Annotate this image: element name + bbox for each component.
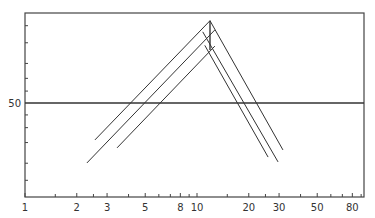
x-tick-label: 30 — [273, 202, 286, 213]
line-falling-3 — [205, 45, 268, 157]
x-tick-label: 8 — [177, 202, 183, 213]
x-axis: 123581020305080 — [22, 193, 361, 213]
x-tick-label: 2 — [74, 202, 80, 213]
line-rising-1 — [95, 21, 210, 140]
x-tick-label: 80 — [346, 202, 359, 213]
x-tick-label: 10 — [191, 202, 204, 213]
x-tick-label: 20 — [242, 202, 255, 213]
x-tick-label: 50 — [311, 202, 324, 213]
line-rising-2 — [87, 30, 215, 163]
line-rising-3 — [117, 46, 215, 148]
x-tick-label: 3 — [104, 202, 110, 213]
x-tick-label: 1 — [22, 202, 28, 213]
plot-frame — [25, 13, 364, 197]
data-lines — [87, 21, 283, 163]
y-label-50: 50 — [8, 98, 21, 109]
x-tick-label: 5 — [142, 202, 148, 213]
probability-plot: 123581020305080 50 — [0, 0, 375, 218]
line-falling-2 — [203, 32, 278, 162]
line-falling-1 — [210, 21, 283, 150]
